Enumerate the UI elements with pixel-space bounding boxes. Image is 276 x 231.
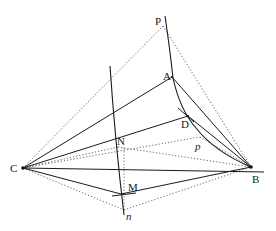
line-c-d [23,116,188,168]
curve-through-p-a-d-b [165,16,251,167]
label-d: D [181,118,189,130]
point-a [171,76,173,78]
label-b: B [252,173,259,185]
label-n-italic: n [126,210,132,222]
dotted-line-p-lower-b [200,137,251,167]
dotted-line-n-point-b [124,167,251,210]
geometric-diagram: C B P A D N M p n [0,0,276,231]
dotted-line-c-n-point [23,168,124,210]
dotted-line-p-b [163,26,251,167]
label-a: A [163,70,171,82]
label-c: C [10,162,17,174]
label-p: P [155,15,161,27]
dotted-line-c-n-b [23,147,118,168]
line-c-a [23,77,172,168]
dotted-line-c-p-lower [23,137,200,168]
point-b [249,165,253,169]
labels: C B P A D N M p n [10,15,259,222]
label-n: N [117,135,125,147]
label-m: M [128,181,138,193]
line-c-m [23,168,121,194]
point-c [21,166,25,170]
point-d [187,115,189,117]
dotted-line-c-p [23,26,163,168]
points [21,76,253,170]
label-p-italic: p [194,140,201,152]
solid-lines [23,77,264,196]
